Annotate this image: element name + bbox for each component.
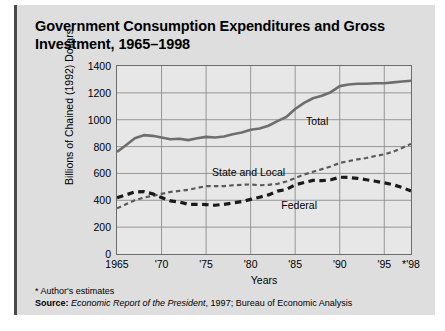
source-line: Source: Economic Report of the President… (35, 298, 425, 308)
x-tick-1980: '80 (244, 258, 258, 270)
x-tick-1965: 1965 (105, 258, 128, 270)
x-tick-1985: '85 (288, 258, 302, 270)
x-tick-1990: '90 (333, 258, 347, 270)
x-tick-1970: '70 (155, 258, 169, 270)
x-tick-1975: '75 (199, 258, 213, 270)
plot-area: Total State and Local Federal (116, 65, 412, 261)
figure-notes: * Author's estimates Source: Economic Re… (35, 286, 425, 308)
series-label-total: Total (306, 115, 328, 127)
source-title: Economic Report of the President (71, 298, 206, 308)
y-tick-400: 400 (71, 194, 111, 206)
y-tick-1400: 1400 (71, 60, 111, 72)
series-label-federal: Federal (281, 199, 317, 211)
footnote-text: * Author's estimates (35, 286, 425, 296)
source-rest: , 1997; Bureau of Economic Analysis (206, 298, 353, 308)
source-label: Source: (35, 298, 69, 308)
chart-title: Government Consumption Expenditures and … (35, 17, 405, 54)
x-axis-title: Years (116, 274, 412, 286)
y-tick-600: 600 (71, 167, 111, 179)
x-tick-1998: *'98 (402, 258, 420, 270)
y-tick-1200: 1200 (71, 87, 111, 99)
y-axis-ticks: 0200400600800100012001400 (67, 65, 111, 255)
x-tick-1995: '95 (377, 258, 391, 270)
y-tick-800: 800 (71, 141, 111, 153)
figure-panel: Government Consumption Expenditures and … (14, 5, 435, 315)
chart-svg (117, 66, 411, 254)
y-tick-200: 200 (71, 221, 111, 233)
plot-frame: Total State and Local Federal (116, 65, 412, 255)
y-tick-1000: 1000 (71, 114, 111, 126)
series-label-state-and-local: State and Local (212, 166, 285, 178)
x-axis-ticks: 1965'70'75'80'85'90'95*'98 (116, 258, 412, 274)
